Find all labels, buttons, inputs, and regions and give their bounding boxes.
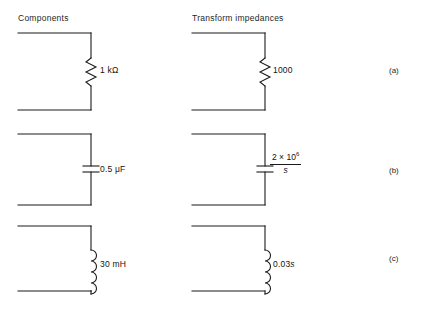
numerator-text: 2 × 10 xyxy=(272,152,296,162)
impedance-label-capacitor: 2 × 106 s xyxy=(270,153,301,176)
component-label-inductor: 30 mH xyxy=(100,259,126,269)
circuit-c-impedance xyxy=(192,226,271,294)
row-label-b: (b) xyxy=(389,166,399,175)
circuit-figure: Components Transform impedances xyxy=(0,0,426,314)
row-label-c: (c) xyxy=(389,254,398,263)
impedance-variable: s xyxy=(290,259,294,269)
numerator-exponent: 6 xyxy=(296,151,299,157)
circuit-b-components xyxy=(18,134,99,205)
resistor-zigzag xyxy=(86,58,96,86)
circuit-diagram-svg xyxy=(0,0,426,314)
circuit-a-impedance xyxy=(192,33,270,110)
inductor-coil xyxy=(91,250,97,294)
circuit-a-components xyxy=(18,33,96,110)
impedance-label-resistor: 1000 xyxy=(273,65,293,75)
impedance-value: 0.03 xyxy=(273,259,290,269)
impedance-numerator: 2 × 106 xyxy=(270,153,301,165)
inductor-coil xyxy=(265,250,271,294)
impedance-label-inductor: 0.03s xyxy=(273,259,295,269)
component-label-resistor: 1 kΩ xyxy=(100,65,119,75)
component-label-capacitor: 0.5 μF xyxy=(100,164,125,174)
circuit-c-components xyxy=(18,226,97,294)
resistor-zigzag xyxy=(260,58,270,86)
impedance-denominator: s xyxy=(270,165,301,176)
row-label-a: (a) xyxy=(389,66,399,75)
circuit-b-impedance xyxy=(192,134,273,205)
